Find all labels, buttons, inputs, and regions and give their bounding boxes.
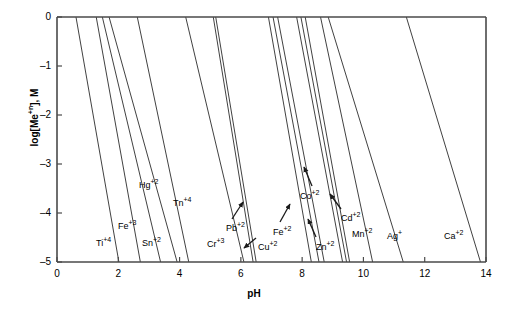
series-label-Sn+2: Sn+2 [142,239,161,248]
x-tick-label-4: 4 [165,268,195,279]
data-line-Ca+2 [406,17,480,262]
series-label-Mn+2: Mn+2 [352,230,373,239]
y-tick-label-4: –4 [21,207,51,218]
annotation-arrow-Fe+2 [280,204,290,222]
annotation-arrow-Co+2 [304,167,312,186]
data-line-Ti+2 [76,17,119,262]
data-line-Cd+2 [297,17,343,262]
y-tick-label-5: –5 [21,256,51,267]
x-tick-label-6: 6 [226,268,256,279]
y-tick-label-0: 0 [21,11,51,22]
series-label-Cd+2: Cd+2 [341,214,361,223]
annotation-arrow-Cu+2 [244,238,256,248]
annotation-arrow-Zn+2 [308,219,316,237]
series-label-Fe+3: Fe+3 [118,222,137,231]
data-line-Tn+4 [137,17,188,262]
chart-figure: log[Me+n], M pH 0–1–2–3–4–5 02468101214 … [0,0,508,310]
series-label-Hg+2: Hg+2 [139,181,159,190]
x-tick-label-8: 8 [287,268,317,279]
series-label-Pb+2: Pb+2 [226,224,245,233]
x-tick-label-12: 12 [410,268,440,279]
y-tick-label-2: –2 [21,109,51,120]
series-label-Fe+2: Fe+2 [273,228,292,237]
series-label-Ag+: Ag+ [387,232,402,241]
series-label-Ca+2: Ca+2 [444,232,464,241]
data-line-Ag+ [321,17,373,262]
x-tick-label-14: 14 [471,268,501,279]
y-tick-label-1: –1 [21,60,51,71]
series-label-Ti+2: Ti+4 [96,239,111,248]
chart-plot-area [0,0,508,310]
x-tick-label-0: 0 [42,268,72,279]
x-tick-label-2: 2 [103,268,133,279]
series-label-Cr+3: Cr+3 [207,240,224,249]
annotation-arrow-Pb+2 [232,202,243,219]
x-tick-label-10: 10 [348,268,378,279]
y-tick-label-3: –3 [21,158,51,169]
series-label-Zn+2: Zn+2 [316,243,335,252]
series-label-Co+2: Co+2 [300,192,320,201]
series-label-Tn+4: Tn+4 [173,199,192,208]
x-axis-title: pH [0,288,508,299]
series-label-Cu+2: Cu+2 [258,243,278,252]
